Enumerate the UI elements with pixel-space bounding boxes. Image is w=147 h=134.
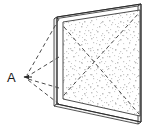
figure-container: A — [0, 0, 147, 134]
screen-perspective-diagram: A — [0, 0, 147, 134]
point-a-label: A — [7, 70, 16, 85]
screen-panel-surface-fine — [63, 10, 140, 116]
